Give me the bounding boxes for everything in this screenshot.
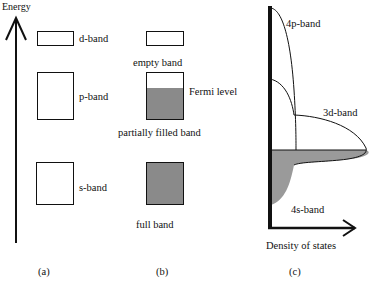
empty-band-label: empty band: [133, 58, 182, 69]
fermi-level-label: Fermi level: [189, 87, 237, 98]
s-band-label: s-band: [79, 183, 107, 194]
d-band-box: [37, 31, 74, 46]
4p-band-label: 4p-band: [286, 19, 320, 30]
caption-c: (c): [289, 267, 301, 278]
full-band-label: full band: [136, 220, 174, 231]
p-band-label: p-band: [79, 92, 108, 103]
partially-filled-band-label: partially filled band: [118, 128, 201, 139]
caption-a: (a): [38, 267, 50, 278]
full-band-box: [146, 162, 184, 205]
dos-plot: [268, 6, 369, 236]
caption-b: (b): [156, 267, 168, 278]
3d-band-label: 3d-band: [323, 108, 357, 119]
dos-axis-label: Density of states: [266, 241, 336, 252]
4s-band-label: 4s-band: [291, 205, 324, 216]
s-band-box: [36, 162, 74, 205]
energy-axis-label: Energy: [2, 2, 31, 12]
partially-filled-band-box: [146, 72, 184, 120]
empty-band-box: [146, 31, 184, 46]
filled-region: [147, 88, 183, 119]
p-band-box: [37, 72, 74, 120]
d-band-label: d-band: [79, 34, 108, 45]
energy-axis-arrow: [6, 18, 26, 243]
